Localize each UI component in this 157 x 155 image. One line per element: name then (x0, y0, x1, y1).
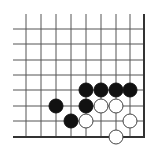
black-stone (94, 83, 108, 97)
black-stone (123, 83, 137, 97)
white-stone (79, 114, 93, 128)
white-stone (109, 130, 123, 144)
white-stone (123, 114, 137, 128)
go-board (0, 0, 157, 155)
black-stone (109, 83, 123, 97)
white-stone (109, 99, 123, 113)
black-stone (79, 83, 93, 97)
black-stone (79, 99, 93, 113)
black-stone (64, 114, 78, 128)
black-stone (49, 99, 63, 113)
stones-layer (49, 83, 137, 144)
white-stone (94, 99, 108, 113)
